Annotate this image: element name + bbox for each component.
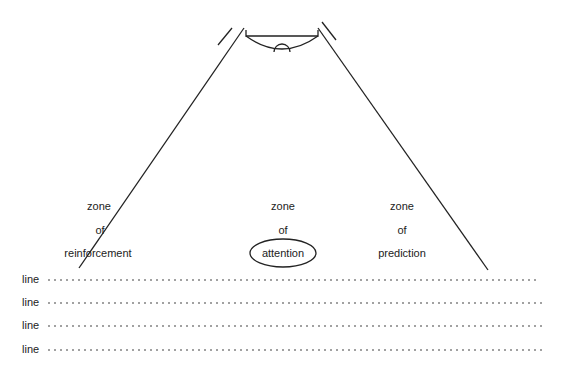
- reinforcement-label: reinforcement: [58, 247, 138, 259]
- attention-zone-word: zone: [268, 200, 298, 212]
- prediction-label: prediction: [370, 247, 434, 259]
- reinforcement-of-word: of: [90, 224, 110, 236]
- line-label-3: line: [22, 319, 39, 331]
- prediction-of-word: of: [392, 224, 412, 236]
- bowl-curve: [246, 36, 318, 49]
- left-tick-mark: [218, 28, 232, 45]
- line-label-2: line: [22, 296, 39, 308]
- line-label-4: line: [22, 343, 39, 355]
- pupil-semicircle: [274, 44, 290, 52]
- line-label-1: line: [22, 273, 39, 285]
- attention-label: attention: [253, 247, 313, 259]
- cone-diagram: [0, 0, 567, 370]
- attention-of-word: of: [273, 224, 293, 236]
- reinforcement-zone-word: zone: [84, 200, 114, 212]
- prediction-zone-word: zone: [387, 200, 417, 212]
- bowl-rim: [246, 30, 318, 36]
